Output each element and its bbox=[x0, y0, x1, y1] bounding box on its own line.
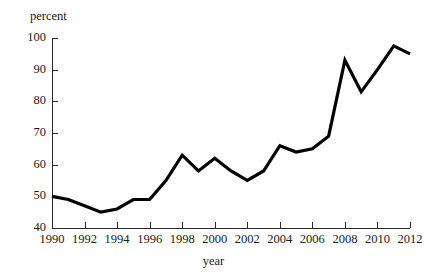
y-tick-60 bbox=[52, 165, 58, 166]
y-tick-50 bbox=[52, 196, 58, 197]
x-axis-line bbox=[52, 228, 410, 229]
y-tick-40 bbox=[52, 228, 58, 229]
y-tick-100 bbox=[52, 38, 58, 39]
y-tick-label-60: 60 bbox=[6, 157, 46, 172]
x-tick-2002 bbox=[247, 222, 248, 228]
x-tick-label-2012: 2012 bbox=[388, 232, 427, 247]
y-axis-title: percent bbox=[30, 9, 67, 24]
y-tick-80 bbox=[52, 101, 58, 102]
x-tick-2004 bbox=[280, 222, 281, 228]
y-tick-label-80: 80 bbox=[6, 93, 46, 108]
x-tick-2010 bbox=[377, 222, 378, 228]
line-chart: percent 405060708090100 1990199219941996… bbox=[0, 0, 427, 280]
y-tick-90 bbox=[52, 70, 58, 71]
y-tick-label-90: 90 bbox=[6, 62, 46, 77]
x-tick-1992 bbox=[85, 222, 86, 228]
x-tick-2000 bbox=[215, 222, 216, 228]
x-axis-title: year bbox=[0, 254, 427, 269]
x-tick-2012 bbox=[410, 222, 411, 228]
x-tick-1998 bbox=[182, 222, 183, 228]
x-tick-2008 bbox=[345, 222, 346, 228]
y-tick-label-70: 70 bbox=[6, 125, 46, 140]
x-tick-1996 bbox=[150, 222, 151, 228]
y-tick-label-50: 50 bbox=[6, 188, 46, 203]
y-tick-70 bbox=[52, 133, 58, 134]
x-tick-1990 bbox=[52, 222, 53, 228]
x-tick-2006 bbox=[312, 222, 313, 228]
x-tick-1994 bbox=[117, 222, 118, 228]
y-tick-label-100: 100 bbox=[6, 30, 46, 45]
